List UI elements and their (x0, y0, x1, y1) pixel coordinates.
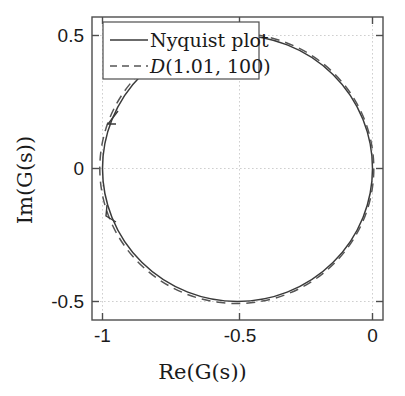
x-tick-label-0: -1 (92, 325, 113, 347)
y-tick-label-1: 0 (38, 158, 84, 180)
plot-canvas: Nyquist plot D(1.01, 100) (0, 0, 405, 396)
x-tick-label-2: 0 (362, 325, 383, 347)
y-tick-label-0: 0.5 (38, 25, 84, 47)
x-axis-title: Re(G(s)) (0, 360, 405, 384)
legend-label-nyquist: Nyquist plot (150, 29, 269, 51)
nyquist-figure: Nyquist plot D(1.01, 100) -1 -0.5 0 0.5 … (0, 0, 405, 396)
legend-label-disk-args: (1.01, 100) (165, 55, 270, 77)
legend-label-disk: D(1.01, 100) (149, 55, 271, 77)
legend-label-disk-prefix: D (149, 55, 165, 77)
x-tick-label-1: -0.5 (212, 325, 268, 347)
y-axis-title: Im(G(s)) (13, 50, 37, 310)
legend[interactable]: Nyquist plot D(1.01, 100) (103, 22, 271, 79)
